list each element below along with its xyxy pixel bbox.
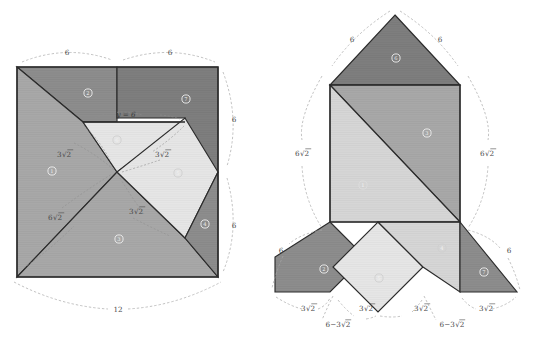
svg-text:3√2: 3√2: [414, 304, 428, 313]
right-dim-nose-right: 6: [438, 35, 443, 44]
left-dim-3r2-upper-right: 3√2: [155, 150, 171, 159]
right-dim-base-3-radicand: 2: [369, 304, 374, 313]
dissection-figure: 6 6 6 6 12 y = 6 3√2 3√2 3√2 6√: [0, 0, 549, 346]
left-piece-label-7: 7: [184, 96, 187, 102]
right-dim-base-4: 3√2: [414, 304, 430, 313]
svg-text:6√2: 6√2: [295, 149, 309, 158]
right-dim-body-right-radicand: 2: [490, 149, 495, 158]
right-piece-label-6: 6: [394, 55, 397, 61]
right-dim-base-5-prefix: 6−: [440, 320, 451, 329]
left-dim-3r2-lo-radicand: 2: [139, 207, 144, 216]
right-dim-base-6: 3√2: [479, 304, 495, 313]
svg-text:6−3√2: 6−3√2: [326, 320, 351, 329]
left-dim-6r2: 6√2: [48, 213, 64, 222]
left-dim-top-left: 6: [65, 48, 70, 57]
left-equation-label: y = 6: [115, 110, 136, 119]
left-dim-right-lower: 6: [232, 221, 237, 230]
left-dim-right-upper: 6: [232, 115, 237, 124]
left-square-figure: 6 6 6 6 12 y = 6 3√2 3√2 3√2 6√: [14, 48, 237, 314]
right-dim-base-2-radicand: 2: [346, 320, 351, 329]
svg-text:6√2: 6√2: [48, 213, 62, 222]
right-dim-base-2-prefix: 6−: [326, 320, 337, 329]
svg-text:6−3√2: 6−3√2: [440, 320, 465, 329]
left-dim-3r2-upper-left: 3√2: [57, 150, 73, 159]
svg-text:6√2: 6√2: [480, 149, 494, 158]
right-dim-base-5-radicand: 2: [460, 320, 465, 329]
right-dim-base-1-radicand: 2: [311, 304, 316, 313]
left-piece-label-6: 6: [115, 137, 118, 143]
left-dim-3r2-lower: 3√2: [129, 207, 145, 216]
diagram-canvas: 6 6 6 6 12 y = 6 3√2 3√2 3√2 6√: [0, 0, 549, 346]
right-piece-label-2: 2: [322, 266, 325, 272]
svg-text:3√2: 3√2: [479, 304, 493, 313]
right-dim-base-1: 3√2: [301, 304, 317, 313]
right-dim-nose-left: 6: [350, 35, 355, 44]
right-piece-label-7: 7: [482, 269, 485, 275]
left-dim-3r2-ul-radicand: 2: [67, 150, 72, 159]
right-dim-body-left: 6√2: [295, 149, 311, 158]
right-dim-base-5: 6−3√2: [440, 320, 466, 329]
svg-text:3√2: 3√2: [155, 150, 169, 159]
left-piece-label-2: 2: [86, 90, 89, 96]
left-dim-bottom: 12: [113, 305, 122, 314]
svg-text:3√2: 3√2: [359, 304, 373, 313]
right-dim-base-6-radicand: 2: [489, 304, 494, 313]
right-piece-label-3: 3: [425, 130, 428, 136]
right-piece-label-1: 1: [361, 182, 364, 188]
right-dim-base-2: 6−3√2: [326, 320, 352, 329]
left-piece-label-3: 3: [117, 236, 120, 242]
right-dim-base-3: 3√2: [359, 304, 375, 313]
left-piece-label-1: 1: [50, 168, 53, 174]
right-dim-fin-left: 6: [279, 246, 284, 255]
left-dim-top-right: 6: [168, 48, 173, 57]
right-piece-label-5: 5: [377, 275, 380, 281]
left-dim-3r2-ur-radicand: 2: [165, 150, 170, 159]
right-dim-body-right: 6√2: [480, 149, 496, 158]
svg-text:3√2: 3√2: [301, 304, 315, 313]
left-piece-label-5: 5: [176, 170, 179, 176]
right-dim-fin-right: 6: [507, 246, 512, 255]
right-dim-base-4-radicand: 2: [424, 304, 429, 313]
svg-text:3√2: 3√2: [57, 150, 71, 159]
right-dim-body-left-radicand: 2: [305, 149, 310, 158]
left-dim-6r2-radicand: 2: [58, 213, 63, 222]
svg-text:3√2: 3√2: [129, 207, 143, 216]
